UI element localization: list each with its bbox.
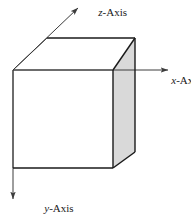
y-axis-name: Axis [53,202,74,214]
x-axis-name: Axis [180,74,191,86]
z-axis-label: z-Axis [79,6,141,18]
axes-cube-figure: z-Axis x-Axis y-Axis [0,0,191,220]
y-axis-label: y-Axis [25,202,87,214]
z-axis-name: Axis [106,6,127,18]
x-axis-label: x-Axis [152,74,191,86]
diagram-canvas: z-Axis x-Axis y-Axis [0,0,191,220]
cube-front-face [13,70,113,168]
